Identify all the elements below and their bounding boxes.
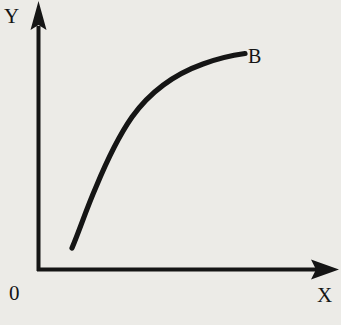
- graph-svg: [0, 0, 341, 325]
- arrow-up-icon: [31, 1, 47, 30]
- origin-label: 0: [9, 283, 20, 304]
- curve-endpoint-label: B: [248, 46, 261, 67]
- curve-path: [72, 54, 245, 249]
- x-axis-label: X: [317, 285, 332, 306]
- y-axis-label: Y: [4, 6, 19, 27]
- figure-canvas: Y X 0 B: [0, 0, 341, 325]
